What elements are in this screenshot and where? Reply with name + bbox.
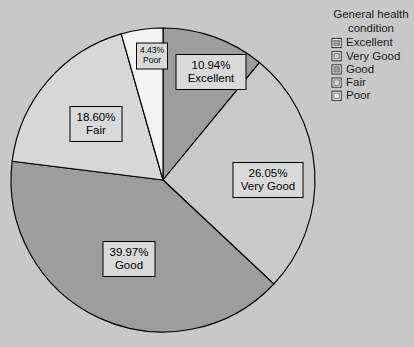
legend-item-poor[interactable]: Poor <box>332 89 370 101</box>
pie-label-percent-good: 39.97% <box>109 246 148 258</box>
pie-label-good: 39.97%Good <box>103 242 155 277</box>
pie-label-fair: 18.60%Fair <box>70 107 122 142</box>
pie-label-poor: 4.43%Poor <box>137 43 168 69</box>
legend-swatch-good <box>334 67 339 72</box>
pie-label-very-good: 26.05%Very Good <box>233 163 303 198</box>
legend-swatch-very-good <box>334 54 339 59</box>
pie-label-percent-poor: 4.43% <box>140 45 165 55</box>
legend-swatch-excellent <box>334 40 339 45</box>
legend-swatch-poor <box>334 93 339 98</box>
legend-swatch-fair <box>334 80 339 85</box>
legend-item-excellent[interactable]: Excellent <box>332 36 393 48</box>
pie-chart-figure: 10.94%Excellent26.05%Very Good39.97%Good… <box>0 0 414 347</box>
legend-label-fair: Fair <box>346 76 366 88</box>
legend-label-excellent: Excellent <box>346 36 393 48</box>
legend-label-good: Good <box>346 63 374 75</box>
legend-label-poor: Poor <box>346 89 370 101</box>
chart-canvas: 10.94%Excellent26.05%Very Good39.97%Good… <box>0 0 414 347</box>
pie-label-name-excellent: Excellent <box>188 72 235 84</box>
pie-label-name-fair: Fair <box>86 124 106 136</box>
legend-item-fair[interactable]: Fair <box>332 76 366 88</box>
legend-label-very-good: Very Good <box>346 50 400 62</box>
pie-label-name-poor: Poor <box>143 55 161 65</box>
pie-label-percent-fair: 18.60% <box>76 111 115 123</box>
legend-item-good[interactable]: Good <box>332 63 374 75</box>
pie-label-percent-very-good: 26.05% <box>248 167 287 179</box>
legend-title-line1: General health <box>333 8 408 20</box>
pie-label-percent-excellent: 10.94% <box>191 59 230 71</box>
pie-label-name-good: Good <box>115 259 143 271</box>
pie-label-name-very-good: Very Good <box>241 180 295 192</box>
legend-title-line2: condition <box>348 22 394 34</box>
pie-label-excellent: 10.94%Excellent <box>176 55 246 90</box>
